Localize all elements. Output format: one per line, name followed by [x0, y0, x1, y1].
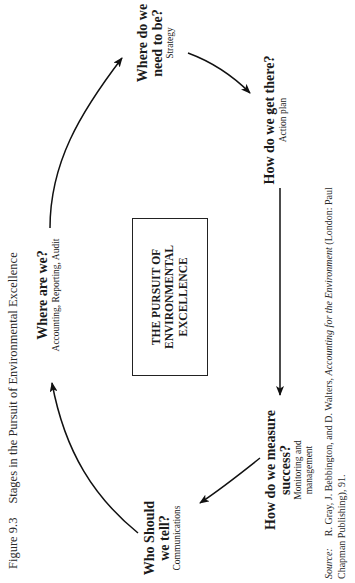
- node-question-line-2: need to be?: [151, 0, 166, 88]
- source-citation: Source:R. Gray, J. Bebbington, and D. Wa…: [322, 159, 348, 579]
- center-line-2: ENVIRONMENTAL: [163, 245, 177, 349]
- arrow-to-action-plan: [188, 53, 250, 93]
- node-question: How do we get there?: [263, 55, 278, 185]
- node-subtitle: Strategy: [166, 0, 176, 88]
- node-subtitle: Accounting, Reporting, Audit: [52, 225, 62, 365]
- node-subtitle-line-1: Monitoring and: [294, 409, 304, 531]
- source-book-title: Accounting for the Environment: [323, 247, 334, 375]
- node-subtitle-line-2: management: [305, 409, 315, 531]
- node-question-line-1: Who Should: [143, 495, 158, 581]
- arrow-to-communications: [200, 458, 260, 503]
- center-line-1: THE PURSUIT OF: [150, 245, 164, 349]
- center-line-3: EXCELLENCE: [177, 245, 191, 349]
- source-authors: R. Gray, J. Bebbington, and D. Walters,: [323, 375, 334, 536]
- node-how-get-there: How do we get there? Action plan: [263, 55, 289, 185]
- source-label: Source:: [323, 548, 334, 579]
- node-how-measure: How do we measure success? Monitoring an…: [264, 409, 315, 531]
- node-who-tell: Who Should we tell? Communications: [143, 495, 183, 581]
- diagram-page: Figure 9.3Stages in the Pursuit of Envir…: [0, 0, 355, 583]
- node-question-line-1: Where do we: [136, 0, 151, 88]
- arrow-to-where-are-we: [52, 383, 138, 533]
- arrow-to-strategy: [50, 58, 122, 228]
- node-where-need-to-be: Where do we need to be? Strategy: [136, 0, 176, 88]
- node-where-are-we: Where are we? Accounting, Reporting, Aud…: [36, 245, 62, 345]
- center-box: THE PURSUIT OF ENVIRONMENTAL EXCELLENCE: [132, 218, 208, 376]
- node-question: Where are we?: [36, 245, 51, 345]
- node-question-line-2: we tell?: [158, 495, 173, 581]
- node-subtitle: Action plan: [279, 55, 289, 185]
- node-question-line-2: success?: [279, 409, 294, 531]
- node-question-line-1: How do we measure: [264, 409, 279, 531]
- node-subtitle: Communications: [173, 495, 183, 581]
